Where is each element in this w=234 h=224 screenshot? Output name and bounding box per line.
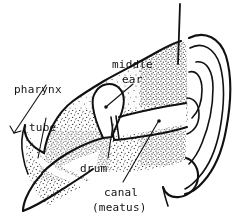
label-pharynx: pharynx <box>14 83 62 96</box>
ear-anatomy-figure: pharynx tube middle ear drum canal (meat… <box>0 0 234 224</box>
label-canal: canal <box>104 186 138 199</box>
label-drum: drum <box>80 162 107 175</box>
label-middle: middle <box>112 58 153 71</box>
label-tube: tube <box>29 121 56 134</box>
label-ear: ear <box>122 73 143 86</box>
label-meatus: (meatus) <box>92 201 147 214</box>
ear-anatomy-diagram: pharynx tube middle ear drum canal (meat… <box>0 0 234 224</box>
